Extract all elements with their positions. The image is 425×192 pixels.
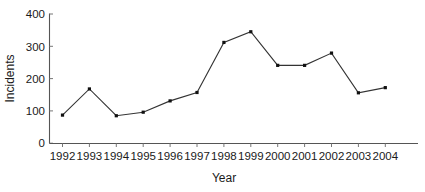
data-point-1999 [249,30,252,33]
x-tick-label-2004: 2004 [373,150,399,162]
series-line-incidents [63,32,386,116]
x-tick-label-1996: 1996 [157,150,183,162]
x-tick-label-2002: 2002 [319,150,345,162]
data-point-1998 [222,41,225,44]
x-tick-label-2003: 2003 [346,150,372,162]
x-tick-label-1994: 1994 [104,150,130,162]
y-axis-title: Incidents [3,54,17,102]
y-tick-label-200: 200 [26,73,45,85]
x-axis-tick-labels: 1992 1993 1994 1995 1996 1997 1998 1999 … [50,150,399,162]
data-point-2000 [276,64,279,67]
data-point-1994 [115,114,118,117]
x-tick-label-2001: 2001 [292,150,318,162]
data-point-1992 [61,114,64,117]
x-axis-title: Year [212,171,236,185]
x-tick-label-2000: 2000 [265,150,291,162]
y-tick-label-0: 0 [39,137,45,149]
y-tick-label-400: 400 [26,8,45,20]
data-point-1997 [195,91,198,94]
data-point-2004 [384,86,387,89]
x-tick-label-1999: 1999 [238,150,264,162]
x-tick-label-1995: 1995 [130,150,156,162]
data-point-1993 [88,87,91,90]
data-point-2001 [303,64,306,67]
x-tick-label-1992: 1992 [50,150,76,162]
data-point-2003 [357,91,360,94]
x-tick-label-1997: 1997 [184,150,210,162]
x-axis-group: 1992 1993 1994 1995 1996 1997 1998 1999 … [50,144,419,186]
y-tick-label-300: 300 [26,41,45,53]
y-axis-tick-labels: 400 300 200 100 0 [26,8,45,149]
chart-plot-area: 400 300 200 100 0 Incidents [0,0,425,192]
y-tick-label-100: 100 [26,105,45,117]
x-tick-label-1993: 1993 [77,150,103,162]
line-chart-figure: 400 300 200 100 0 Incidents [0,0,425,192]
x-tick-label-1998: 1998 [211,150,237,162]
data-point-1996 [169,99,172,102]
series-markers-incidents [61,30,387,117]
data-point-1995 [142,111,145,114]
data-point-2002 [330,51,333,54]
data-series-incidents [61,30,387,117]
y-axis-group: 400 300 200 100 0 Incidents [3,8,53,149]
